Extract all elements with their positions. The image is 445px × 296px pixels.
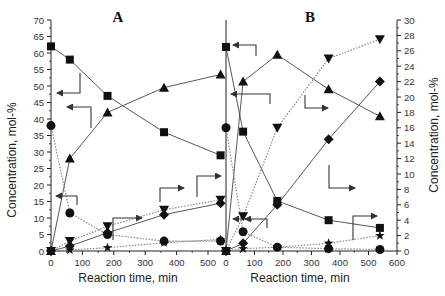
- circle-marker: [222, 123, 231, 132]
- axis-pointer-arrow: [57, 73, 80, 93]
- square-marker: [239, 128, 247, 136]
- axis-pointer-arrow: [113, 218, 142, 240]
- triangle-down-marker: [375, 35, 385, 44]
- triangle-down-marker: [324, 55, 334, 64]
- y-axis-title-left: Concentration, mol-%: [5, 102, 19, 218]
- diamond-marker: [216, 198, 226, 208]
- square-marker: [325, 216, 333, 224]
- y-tick-label-right: 28: [404, 30, 415, 41]
- triangle-up-marker: [324, 84, 334, 93]
- x-tick-label-b: 600: [389, 257, 405, 268]
- series-line-diamond: [51, 203, 221, 251]
- y-tick-label-right: 6: [404, 199, 409, 210]
- triangle-up-marker: [375, 111, 385, 120]
- circle-marker: [375, 245, 384, 254]
- y-tick-label-left: 45: [33, 97, 44, 108]
- triangle-up-marker: [238, 77, 248, 86]
- axes: 0510152025303540455055606570024681012141…: [33, 15, 414, 269]
- x-tick-label-b: 0: [223, 257, 228, 268]
- y-tick-label-left: 5: [39, 229, 44, 240]
- axis-pointer-arrow: [329, 165, 355, 188]
- circle-marker: [47, 121, 56, 130]
- axis-pointer-arrow: [197, 176, 221, 197]
- y-tick-label-right: 2: [404, 230, 409, 241]
- series-line-circle: [226, 128, 380, 250]
- y-tick-label-right: 10: [404, 169, 415, 180]
- y-tick-label-right: 0: [404, 246, 409, 257]
- triangle-up-marker: [103, 107, 113, 116]
- y-tick-label-left: 70: [33, 15, 44, 26]
- triangle-up-marker: [216, 69, 226, 78]
- x-tick-label-a: 200: [106, 257, 122, 268]
- x-tick-label-b: 500: [361, 257, 377, 268]
- triangle-up-marker: [272, 50, 282, 59]
- series-line-triangle-up: [226, 55, 380, 251]
- y-tick-label-left: 15: [33, 196, 44, 207]
- square-marker: [104, 92, 112, 100]
- axis-pointer-arrow: [305, 95, 328, 108]
- star-marker: [375, 231, 385, 240]
- y-tick-label-left: 30: [33, 147, 44, 158]
- x-tick-label-a: 100: [74, 257, 90, 268]
- axis-pointer-arrow: [160, 188, 184, 202]
- x-tick-label-b: 400: [332, 257, 348, 268]
- square-marker: [66, 56, 74, 64]
- y-tick-label-left: 50: [33, 81, 44, 92]
- x-tick-label-b: 300: [304, 257, 320, 268]
- y-tick-label-left: 20: [33, 180, 44, 191]
- y-tick-label-left: 60: [33, 48, 44, 59]
- y-tick-label-left: 40: [33, 114, 44, 125]
- chart-figure: 0510152025303540455055606570024681012141…: [0, 0, 445, 296]
- x-tick-label-b: 200: [275, 257, 291, 268]
- y-tick-label-right: 12: [404, 153, 415, 164]
- series-line-diamond: [226, 82, 380, 251]
- y-tick-label-left: 35: [33, 130, 44, 141]
- series-markers: [46, 35, 385, 256]
- square-marker: [160, 128, 168, 136]
- y-tick-label-right: 8: [404, 184, 409, 195]
- series-line-triangle-up: [51, 75, 221, 252]
- panel-label-a: A: [113, 9, 124, 25]
- y-tick-label-left: 25: [33, 163, 44, 174]
- diamond-marker: [159, 210, 169, 220]
- y-tick-label-right: 16: [404, 122, 415, 133]
- y-tick-label-right: 26: [404, 45, 415, 56]
- y-tick-label-left: 65: [33, 31, 44, 42]
- y-tick-label-right: 30: [404, 15, 415, 26]
- square-marker: [47, 42, 55, 50]
- panel-label-b: B: [305, 9, 315, 25]
- x-tick-label-a: 300: [137, 257, 153, 268]
- axis-pointer-arrow: [233, 45, 256, 56]
- y-tick-label-right: 18: [404, 107, 415, 118]
- y-tick-label-right: 14: [404, 138, 415, 149]
- y-tick-label-left: 55: [33, 64, 44, 75]
- y-tick-label-right: 20: [404, 92, 415, 103]
- y-tick-label-right: 4: [404, 215, 409, 226]
- series-line-star: [51, 239, 221, 251]
- y-tick-label-right: 24: [404, 61, 415, 72]
- circle-marker: [239, 227, 248, 236]
- x-axis-title-b: Reaction time, min: [250, 271, 349, 285]
- series-line-square: [51, 46, 221, 155]
- triangle-down-marker: [238, 212, 248, 221]
- y-tick-label-left: 10: [33, 213, 44, 224]
- star-marker: [103, 243, 113, 252]
- x-axis-title-a: Reaction time, min: [78, 271, 177, 285]
- square-marker: [222, 43, 230, 51]
- circle-marker: [324, 244, 333, 253]
- x-tick-label-a: 400: [169, 257, 185, 268]
- x-tick-label-a: 0: [48, 257, 53, 268]
- y-tick-label-left: 0: [39, 246, 44, 257]
- y-axis-title-right: Concentration, mol-%: [427, 77, 441, 193]
- y-tick-label-right: 22: [404, 76, 415, 87]
- axis-pointer-arrow: [67, 107, 91, 128]
- x-tick-label-a: 500: [200, 257, 216, 268]
- triangle-down-marker: [272, 124, 282, 133]
- square-marker: [217, 151, 225, 159]
- circle-marker: [65, 209, 74, 218]
- x-tick-label-b: 100: [247, 257, 263, 268]
